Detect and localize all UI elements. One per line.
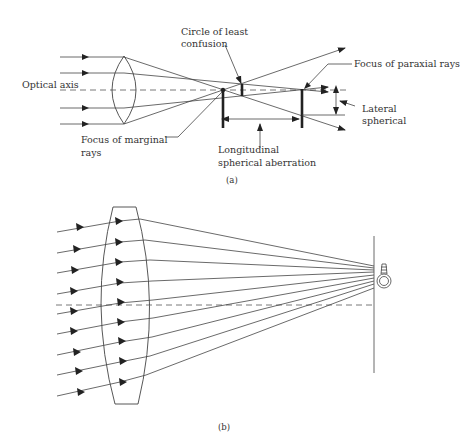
thick-lens [101,207,150,404]
paraxial-focus-label: Focus of paraxial rays [354,58,460,69]
circle-least-confusion-label-2: confusion [181,38,228,49]
ray-arrow-icon [73,245,81,253]
ray-arrow-icon [71,266,79,274]
lateral-spherical-label-2: spherical [362,115,406,126]
ray-arrow-icon [115,217,123,225]
marginal-focus-label-1: Focus of marginal [81,134,168,145]
rays-b [57,219,374,396]
ray-arrow-icon [82,54,89,60]
figure-a: Optical axis Circle of least confusion F… [22,26,460,185]
ray-arrow-icon [82,105,89,111]
least-confusion-leader [225,45,241,83]
ray-arrow-icon [70,307,78,315]
ray-arrow-icon [118,337,126,345]
ray-arrow-icon [82,121,89,127]
lateral-spherical-label-1: Lateral [362,103,397,114]
ray-arrow-icon [115,238,123,246]
marginal-focus-label-2: rays [81,147,102,158]
figure-b: (b) [56,207,391,432]
circle-least-confusion-label-1: Circle of least [181,26,248,37]
figure-b-caption: (b) [218,422,230,432]
incoming-rays [60,54,124,127]
figure-a-caption: (a) [226,175,238,185]
ray-arrow-icon [75,367,83,375]
ray-arrow-icon [70,327,78,335]
longitudinal-label-2: spherical aberration [218,157,316,168]
ray-arrow-icon [82,70,89,76]
ray-arrow-icon [117,318,125,326]
optical-axis-label: Optical axis [22,79,79,90]
ray-arrow-icon [119,357,127,365]
ray-arrow-icon [77,388,85,396]
ray-arrow-icon [76,223,84,231]
marginal-focus-dot [221,88,225,92]
ray-arrow-icon [115,258,123,266]
light-bulb-icon [377,264,391,288]
paraxial-leader [305,64,352,88]
ray-arrow-icon [73,348,81,356]
ray-arrow-icon [116,278,124,286]
lateral-pointer [340,101,355,106]
refracted-rays [124,48,345,130]
spherical-aberration-figure: Optical axis Circle of least confusion F… [0,0,470,447]
ray-arrow-icon [119,378,127,386]
ray-arrow-icon [70,287,78,295]
longitudinal-label-1: Longitudinal [218,144,279,155]
